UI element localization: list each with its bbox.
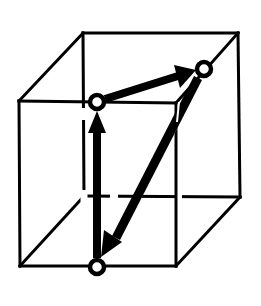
- node-back-top-right: [197, 62, 211, 76]
- arrow-vertical-up: [88, 111, 106, 258]
- node-front-bottom: [90, 260, 104, 274]
- arrow-space-diagonal: [101, 78, 198, 257]
- cube-vector-diagram: [0, 0, 261, 306]
- back-right-edge: [238, 33, 240, 197]
- back-bottom-edge: [84, 196, 240, 197]
- depth-edge-bottom-right: [176, 197, 240, 266]
- node-front-top: [90, 95, 104, 109]
- arrowhead-up-icon: [88, 111, 106, 133]
- depth-edge-top-left: [19, 33, 83, 101]
- depth-edge-bottom-left: [20, 196, 84, 266]
- front-left-edge: [19, 101, 20, 266]
